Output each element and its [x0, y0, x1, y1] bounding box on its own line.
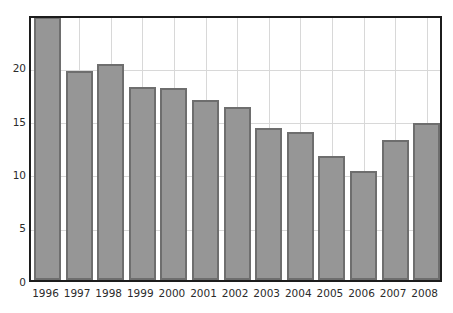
bar [350, 171, 377, 280]
bar [160, 88, 187, 280]
plot-area [29, 16, 442, 282]
x-tick-label: 2008 [405, 287, 445, 299]
bar [97, 64, 124, 280]
bar [129, 87, 156, 280]
y-tick-label: 10 [2, 170, 26, 181]
y-tick-label: 5 [2, 223, 26, 234]
bar [318, 156, 345, 280]
y-tick-label: 20 [2, 63, 26, 74]
bar-chart: 05101520 1996199719981999200020012002200… [0, 0, 453, 313]
bar [192, 100, 219, 280]
y-axis-tick-labels: 05101520 [0, 0, 26, 313]
bar [255, 128, 282, 281]
y-tick-label: 0 [2, 277, 26, 288]
bar [287, 132, 314, 280]
bar [382, 140, 409, 280]
bar [224, 107, 251, 280]
bar [34, 17, 61, 280]
bar [66, 71, 93, 280]
bar [413, 123, 440, 280]
y-tick-label: 15 [2, 117, 26, 128]
